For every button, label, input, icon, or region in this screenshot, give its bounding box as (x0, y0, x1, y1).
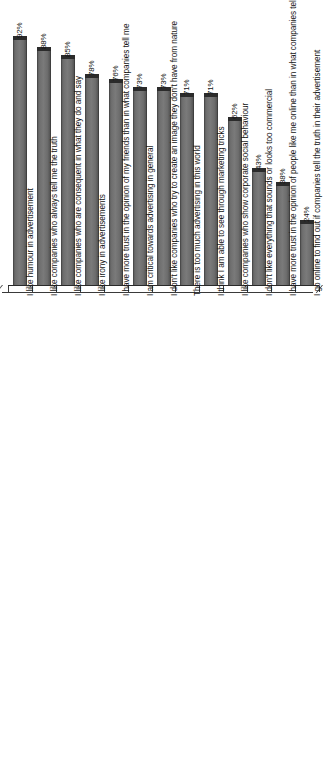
x-axis-category-label: I go online to find out if companies tel… (313, 50, 322, 296)
bar-slot: 85% (61, 14, 75, 285)
x-axis-category-label: I like companies who always tell me the … (50, 136, 59, 296)
bar (85, 74, 99, 285)
bar-slot: 92% (13, 14, 27, 285)
bar (61, 55, 75, 285)
bar-value-label: 71% (207, 55, 215, 95)
bar-slot: 24% (300, 14, 314, 285)
bar-value-label: 62% (231, 79, 239, 119)
bar-slot: 88% (37, 14, 51, 285)
bar-value-label: 71% (183, 55, 191, 95)
bar-value-label: 73% (136, 49, 144, 89)
x-axis-category-label: I like companies who are consequent in w… (74, 76, 83, 296)
bar-value-label: 76% (112, 41, 120, 81)
bar-value-label: 38% (279, 144, 287, 184)
x-axis-category-label: I have more trust in the opinion of my f… (122, 24, 131, 296)
bar (157, 87, 171, 285)
x-axis-category-label: There is too much advertising in this wo… (193, 145, 202, 296)
x-axis-category-label: I like irony in advertisements (98, 194, 107, 296)
bar (13, 36, 27, 285)
bar (109, 79, 123, 285)
bar-value-label: 43% (255, 130, 263, 170)
bar (276, 182, 290, 285)
bar-value-label: 85% (64, 17, 72, 57)
bar (133, 87, 147, 285)
bar-value-label: 24% (303, 182, 311, 222)
bar-chart: 92%88%85%78%76%73%73%71%71%62%43%38%24% … (0, 0, 327, 774)
x-axis-category-label: I think I am able to see through marketi… (217, 126, 226, 296)
bar-slot: 73% (157, 14, 171, 285)
bar (300, 220, 314, 285)
bar-value-label: 88% (40, 9, 48, 49)
bar-slot: 73% (133, 14, 147, 285)
bar (37, 47, 51, 285)
bar-slot: 38% (276, 14, 290, 285)
x-axis-category-label: I don't like everything that sounds or l… (265, 89, 274, 296)
bar-value-label: 73% (160, 49, 168, 89)
bar-value-label: 92% (16, 0, 24, 38)
x-axis-category-label: I like companies who show corporate soci… (241, 103, 250, 296)
x-axis-tick (8, 286, 9, 292)
bar-slot: 78% (85, 14, 99, 285)
bar-value-label: 78% (88, 36, 96, 76)
x-axis-category-label: I am critical towards advertising in gen… (146, 146, 155, 296)
bar-slot: 76% (109, 14, 123, 285)
x-axis-category-label: I don't like companies who try to create… (170, 21, 179, 296)
x-axis-category-label: I like humour in advertisement (26, 188, 35, 296)
x-axis-category-label: I have more trust in the opinion of peop… (289, 0, 298, 296)
